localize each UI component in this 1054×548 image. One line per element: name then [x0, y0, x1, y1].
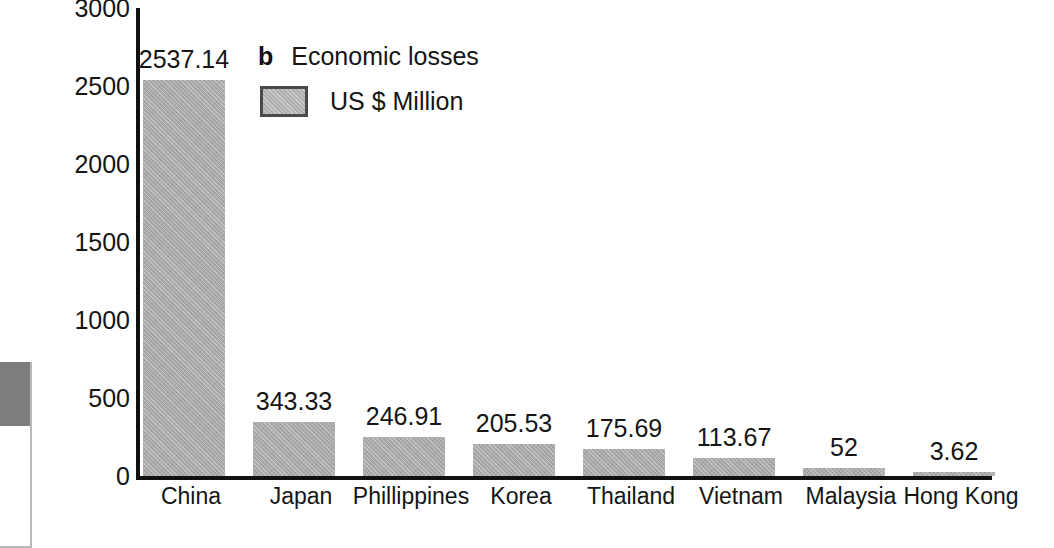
y-axis-tick-label: 3000 — [10, 0, 130, 21]
bar-value-label: 2537.14 — [136, 47, 232, 72]
y-axis-tick-label: 0 — [10, 464, 130, 489]
y-axis-tick-label: 2000 — [10, 152, 130, 177]
chart-figure: 300025002000150010005000 2537.14343.3324… — [0, 0, 1054, 548]
bar-slot: 3.62 — [906, 8, 1016, 476]
bar-slot: 175.69 — [576, 8, 686, 476]
bar-value-label: 52 — [796, 435, 892, 460]
y-axis-tick-label: 1000 — [10, 308, 130, 333]
y-axis-tick-label: 2500 — [10, 74, 130, 99]
chart-title: Economic losses — [291, 44, 479, 69]
panel-letter: b — [258, 44, 273, 69]
y-axis-tick-label: 1500 — [10, 230, 130, 255]
legend-title-row: b Economic losses — [258, 44, 479, 69]
bar — [913, 472, 995, 476]
bar — [693, 458, 775, 476]
bar-value-label: 246.91 — [356, 404, 452, 429]
legend: b Economic losses US $ Million — [258, 44, 588, 134]
bar — [473, 444, 555, 476]
bar-value-label: 205.53 — [466, 411, 562, 436]
bar-slot: 2537.14 — [136, 8, 246, 476]
legend-swatch-icon — [260, 86, 308, 117]
bar-value-label: 3.62 — [906, 439, 1002, 464]
bar — [363, 437, 445, 476]
bar-slot: 113.67 — [686, 8, 796, 476]
y-axis-tick-labels: 300025002000150010005000 — [0, 8, 130, 476]
bar-value-label: 343.33 — [246, 389, 342, 414]
bar — [583, 449, 665, 476]
bar — [143, 80, 225, 476]
bar-slot: 52 — [796, 8, 906, 476]
x-axis-line — [136, 476, 992, 480]
bar — [803, 468, 885, 476]
legend-series-label: US $ Million — [330, 89, 463, 114]
x-axis-category-labels: ChinaJapanPhillippinesKoreaThailandVietn… — [136, 484, 1016, 520]
bar — [253, 422, 335, 476]
bar-value-label: 113.67 — [686, 425, 782, 450]
y-axis-tick-label: 500 — [10, 386, 130, 411]
x-axis-category-label: Hong Kong — [886, 484, 1036, 509]
legend-entry-us-dollar-million: US $ Million — [260, 86, 463, 117]
bar-value-label: 175.69 — [576, 416, 672, 441]
